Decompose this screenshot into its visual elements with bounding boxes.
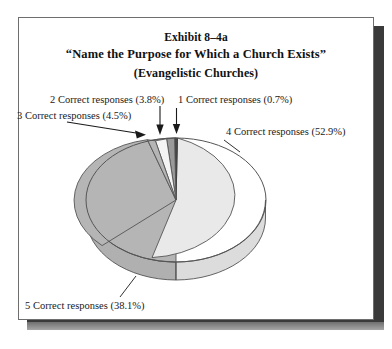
pie-chart: [0, 0, 392, 349]
arrowhead-3-correct: [135, 130, 146, 138]
leader-line-4-correct: [224, 140, 240, 152]
leader-line-5-correct: [120, 276, 136, 297]
label-3-correct: 3 Correct responses (4.5%): [17, 110, 131, 122]
leader-line-3-correct: [67, 122, 136, 133]
arrowhead-1-correct: [173, 124, 180, 134]
screenshot-stage: Exhibit 8–4a “Name the Purpose for Which…: [0, 0, 392, 349]
label-1-correct: 1 Correct responses (0.7%): [178, 94, 292, 106]
label-2-correct: 2 Correct responses (3.8%): [50, 94, 164, 106]
arrowhead-2-correct: [156, 125, 163, 136]
label-5-correct: 5 Correct responses (38.1%): [25, 300, 145, 312]
label-4-correct: 4 Correct responses (52.9%): [226, 126, 346, 138]
